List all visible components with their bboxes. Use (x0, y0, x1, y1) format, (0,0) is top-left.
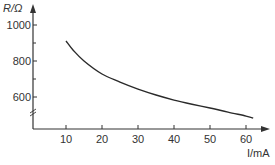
chart: 1000 800 600 10 20 30 40 50 60 R/Ω I/mA (0, 0, 275, 165)
y-tick-label: 800 (13, 55, 31, 67)
y-axis-arrow-icon (30, 4, 36, 13)
x-axis-label: I/mA (247, 147, 270, 159)
x-tick-label: 50 (204, 133, 216, 145)
y-tick-label: 1000 (7, 19, 31, 31)
x-tick-label: 20 (96, 133, 108, 145)
x-tick-label: 40 (168, 133, 180, 145)
x-tick-label: 10 (60, 133, 72, 145)
x-axis-arrow-icon (261, 126, 270, 132)
x-tick-label: 60 (240, 133, 252, 145)
data-curve (66, 41, 253, 118)
y-axis-label: R/Ω (3, 2, 22, 14)
y-tick-label: 600 (13, 91, 31, 103)
x-tick-label: 30 (132, 133, 144, 145)
